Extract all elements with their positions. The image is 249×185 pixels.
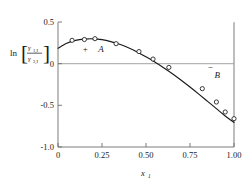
data-point [214,100,218,104]
data-point [232,117,236,121]
data-point [200,87,204,91]
y-tick-label-2: -0.5 [41,100,54,110]
chart-canvas: 0.5 0 -0.5 -1.0 0 0.25 0.50 0.75 1.00 x … [0,0,249,185]
x-axis-ticks [58,143,234,147]
data-point [223,110,227,114]
y-axis-ticks [58,22,62,147]
x-tick-label-0: 0 [56,150,60,160]
plus-sign-icon: + [83,44,88,54]
annotation-region-a: + A [83,44,105,54]
x-axis-title: x 1 [140,168,151,179]
data-point-markers [70,37,236,121]
x-tick-label-1: 0.25 [95,150,110,160]
data-point [82,37,86,41]
x-axis-title-main: x [140,168,145,178]
data-point [167,65,171,69]
y-tick-label-3: -1.0 [41,142,54,152]
y-axis-bracket-close: ] [43,41,50,65]
chart-figure: 0.5 0 -0.5 -1.0 0 0.25 0.50 0.75 1.00 x … [0,0,249,185]
annotation-region-b: − B [208,62,221,80]
x-tick-label-2: 0.50 [139,150,154,160]
y-axis-denominator-gamma: γ [28,55,31,63]
data-point [70,38,74,42]
x-axis-tick-labels: 0 0.25 0.50 0.75 1.00 [56,150,242,160]
y-axis-fraction: γ 1,I γ 2,I [27,44,42,65]
x-axis-title-sub: 1 [148,173,151,179]
y-axis-bracket-open: [ [21,41,28,65]
y-axis-title: ln [ γ 1,I γ 2,I ] [10,41,50,65]
data-point [114,42,118,46]
x-tick-label-4: 1.00 [227,150,242,160]
y-axis-denominator-subscript: 2,I [33,59,38,65]
y-tick-label-1: 0 [50,59,54,69]
data-point [137,49,141,53]
region-a-label: A [97,44,104,54]
y-tick-label-0: 0.5 [43,17,54,27]
x-tick-label-3: 0.75 [183,150,198,160]
y-axis-tick-labels: 0.5 0 -0.5 -1.0 [41,17,54,152]
region-b-label: B [215,70,221,80]
data-point [151,57,155,61]
data-point [93,37,97,41]
y-axis-numerator-subscript: 1,I [33,48,38,54]
y-axis-numerator-gamma: γ [28,44,31,52]
minus-sign-icon: − [208,62,213,72]
y-axis-title-ln: ln [10,48,18,58]
